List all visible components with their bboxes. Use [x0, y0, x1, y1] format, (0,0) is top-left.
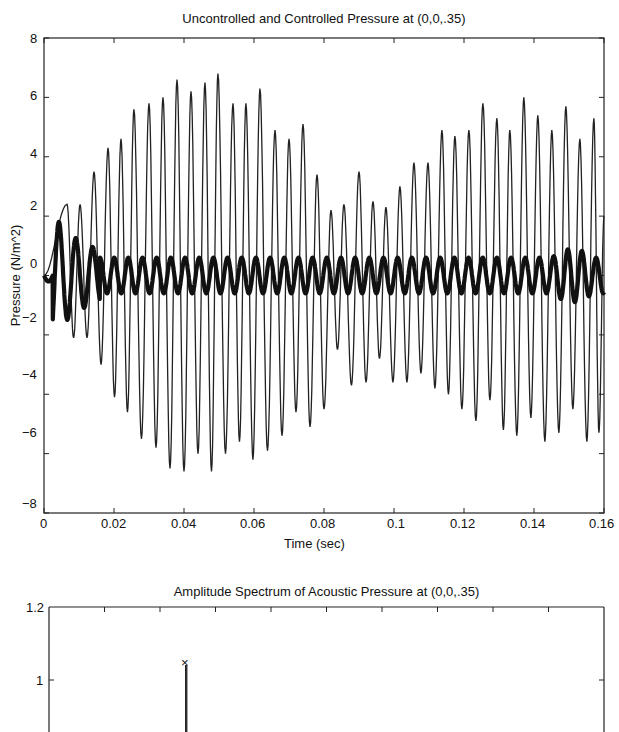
spectrum-peak	[186, 665, 187, 732]
peak-marker-x: ×	[181, 655, 189, 670]
bottom-chart-plot: ×	[0, 0, 619, 732]
